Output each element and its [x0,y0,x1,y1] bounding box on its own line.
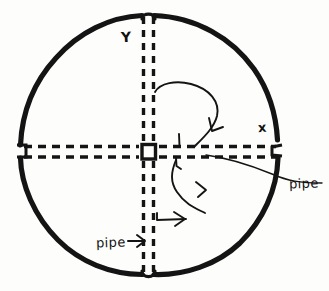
upper-flow-arrow [155,82,223,147]
lower-flow-arrow [172,160,206,213]
hand-drawn-pipe-diagram: Y x pipe pipe [0,0,329,291]
sketch-canvas [0,0,329,291]
lower-left-feed-arrow [157,212,186,226]
label-y-axis: Y [121,29,132,46]
label-pipe-right: pipe [289,175,319,191]
label-x-axis: x [257,120,267,136]
horizontal-pipe [24,147,276,158]
pipe-junction [142,145,156,160]
pipe-branch-ticks [176,134,181,169]
label-pipe-bottom: pipe [96,234,126,250]
